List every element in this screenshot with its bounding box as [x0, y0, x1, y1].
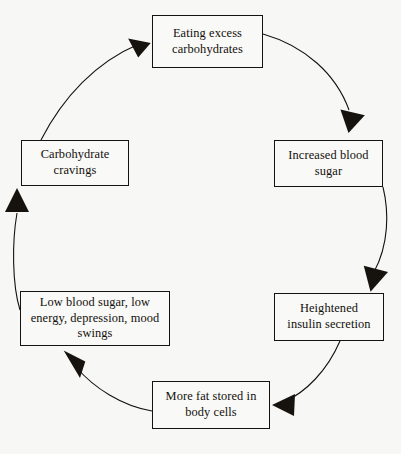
- node-lowblood-label: Low blood sugar, low energy, depression,…: [27, 295, 164, 343]
- node-morefat-label: More fat stored in body cells: [162, 389, 261, 421]
- arrowhead-to-increased-icon: [334, 108, 365, 137]
- arrowhead-to-cravings-icon: [5, 188, 29, 212]
- node-heightened-insulin-secretion: Heightened insulin secretion: [274, 293, 384, 341]
- arrowhead-to-heightened-icon: [359, 266, 388, 295]
- edge-heightened-to-morefat-line: [284, 341, 340, 402]
- node-cravings-label: Carbohydrate cravings: [37, 147, 114, 179]
- edge-morefat-to-lowblood-line: [76, 367, 152, 411]
- node-eating-label: Eating excess carbohydrates: [168, 26, 247, 58]
- node-carbohydrate-cravings: Carbohydrate cravings: [21, 140, 129, 186]
- node-low-blood-sugar: Low blood sugar, low energy, depression,…: [20, 291, 170, 346]
- edge-eating-to-increased-line: [263, 34, 349, 110]
- node-more-fat-stored: More fat stored in body cells: [152, 381, 270, 429]
- arrowhead-to-morefat-icon: [272, 394, 295, 416]
- cycle-diagram: Eating excess carbohydrates Increased bl…: [0, 0, 401, 454]
- node-increased-blood-sugar: Increased blood sugar: [274, 140, 383, 187]
- node-increased-label: Increased blood sugar: [284, 148, 372, 180]
- node-heightened-label: Heightened insulin secretion: [283, 301, 374, 333]
- edge-cravings-to-eating-line: [41, 44, 139, 140]
- node-eating-excess-carbohydrates: Eating excess carbohydrates: [152, 15, 263, 68]
- edge-increased-to-heightened-line: [374, 187, 387, 272]
